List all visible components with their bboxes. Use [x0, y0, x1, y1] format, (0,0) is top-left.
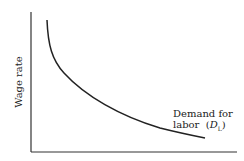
curve-symbol-subscript: L	[218, 125, 222, 132]
demand-curve-label: Demand for labor (DL)	[173, 108, 233, 134]
curve-label-word: labor	[173, 119, 199, 130]
demand-curve-chart	[0, 0, 244, 161]
curve-label-line2: labor (DL)	[173, 119, 233, 134]
curve-label-line1: Demand for	[173, 108, 233, 119]
curve-symbol: D	[210, 119, 218, 130]
y-axis-label: Wage rate	[13, 56, 24, 108]
